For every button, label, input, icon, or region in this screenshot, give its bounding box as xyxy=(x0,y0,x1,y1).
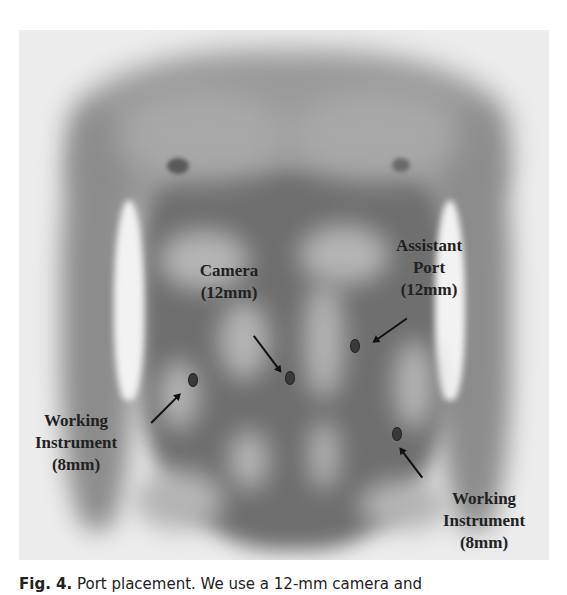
camera-label-line1: Camera xyxy=(179,260,279,282)
figure-caption-text: Port placement. We use a 12-mm camera an… xyxy=(72,575,422,593)
right-pectoral xyxy=(289,90,459,180)
ab-highlight xyxy=(134,470,224,530)
ab-highlight xyxy=(299,225,389,285)
working-instrument-right-label-line1: Working xyxy=(429,488,539,510)
figure-caption-label: Fig. 4. xyxy=(19,575,72,593)
assistant-port-marker xyxy=(350,339,360,353)
ab-highlight xyxy=(394,340,434,430)
working-instrument-right-label-line3: (8mm) xyxy=(429,532,539,554)
figure-caption: Fig. 4. Port placement. We use a 12-mm c… xyxy=(19,575,559,593)
working-instrument-left-label-line2: Instrument xyxy=(21,432,131,454)
camera-label-line2: (12mm) xyxy=(179,282,279,304)
ab-highlight xyxy=(309,420,339,490)
working-instrument-left-label-line3: (8mm) xyxy=(21,454,131,476)
assistant-port-label: Assistant Port (12mm) xyxy=(379,235,479,301)
working-instrument-right-port-marker xyxy=(392,427,402,441)
ab-highlight xyxy=(219,300,269,380)
left-nipple xyxy=(167,158,189,174)
camera-label: Camera (12mm) xyxy=(179,260,279,304)
ab-highlight xyxy=(229,430,269,490)
ab-highlight xyxy=(304,280,344,400)
working-instrument-right-label: Working Instrument (8mm) xyxy=(429,488,539,554)
working-instrument-right-label-line2: Instrument xyxy=(429,510,539,532)
assistant-port-label-line1: Assistant xyxy=(379,235,479,257)
left-pectoral xyxy=(119,90,289,180)
right-nipple xyxy=(392,158,410,172)
figure-image-panel: Camera (12mm) Assistant Port (12mm) Work… xyxy=(19,30,549,560)
working-instrument-left-label: Working Instrument (8mm) xyxy=(21,410,131,476)
working-instrument-left-label-line1: Working xyxy=(21,410,131,432)
working-instrument-left-port-marker xyxy=(188,373,198,387)
left-arm-gap xyxy=(114,200,144,400)
camera-port-marker xyxy=(285,371,295,385)
assistant-port-label-line3: (12mm) xyxy=(379,279,479,301)
assistant-port-label-line2: Port xyxy=(379,257,479,279)
